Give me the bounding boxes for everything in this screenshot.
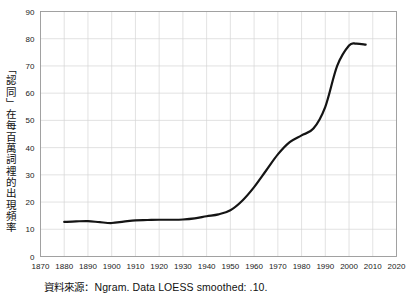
data-series-line <box>64 43 365 223</box>
x-tick-label: 1900 <box>103 262 121 271</box>
y-tick-label: 20 <box>26 198 35 207</box>
chart-figure: 「認同」在每百萬詞裡的出現頻率 187018801890190019101920… <box>0 0 414 300</box>
x-tick-label: 1980 <box>293 262 311 271</box>
x-tick-label: 1940 <box>198 262 216 271</box>
x-tick-label: 1890 <box>79 262 97 271</box>
y-tick-label: 50 <box>26 116 35 125</box>
x-tick-label: 2000 <box>340 262 358 271</box>
source-note: 資料來源：Ngram. Data LOESS smoothed: .10. <box>44 279 268 294</box>
x-tick-label: 1950 <box>221 262 239 271</box>
x-tick-label: 1930 <box>174 262 192 271</box>
y-tick-label: 30 <box>26 171 35 180</box>
x-tick-label: 1910 <box>127 262 145 271</box>
y-tick-label: 80 <box>26 35 35 44</box>
y-axis-title: 「認同」在每百萬詞裡的出現頻率 <box>0 38 20 260</box>
y-tick-label: 0 <box>30 253 35 262</box>
x-tick-label: 1970 <box>269 262 287 271</box>
x-tick-label: 1990 <box>316 262 334 271</box>
x-axis-tick-labels: 1870188018901900191019201930194019501960… <box>32 262 406 271</box>
y-tick-label: 10 <box>26 225 35 234</box>
y-tick-label: 60 <box>26 89 35 98</box>
x-tick-label: 2010 <box>364 262 382 271</box>
plot-frame <box>41 12 397 257</box>
y-tick-label: 70 <box>26 62 35 71</box>
line-chart-plot: 1870188018901900191019201930194019501960… <box>0 0 414 300</box>
x-tick-label: 2020 <box>388 262 406 271</box>
x-tick-label: 1880 <box>55 262 73 271</box>
gridlines-group <box>41 12 397 257</box>
x-tick-label: 1960 <box>245 262 263 271</box>
series-path-認同 <box>64 43 365 223</box>
x-tick-label: 1870 <box>32 262 50 271</box>
y-axis-tick-labels: 0102030405060708090 <box>26 8 35 262</box>
x-tick-label: 1920 <box>150 262 168 271</box>
y-tick-label: 90 <box>26 8 35 17</box>
plot-border <box>41 12 397 257</box>
y-tick-label: 40 <box>26 144 35 153</box>
